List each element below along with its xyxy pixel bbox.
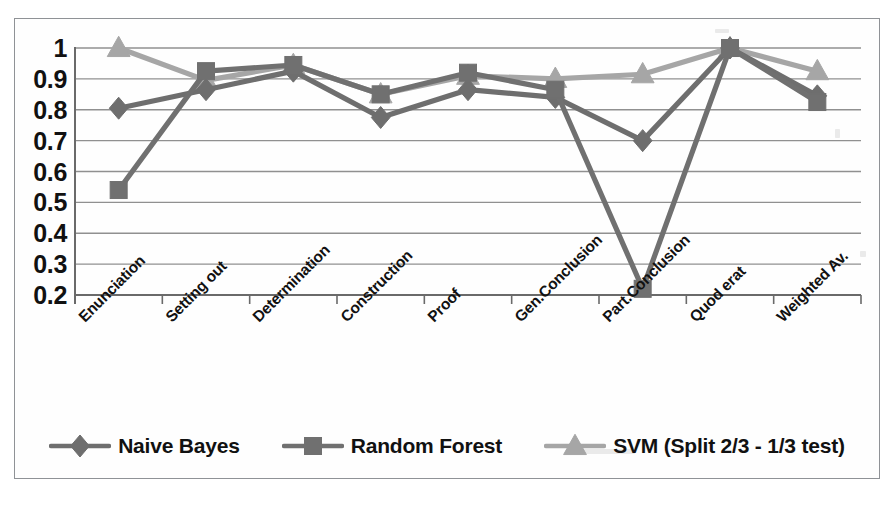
data-point-square (460, 64, 477, 81)
legend-label: SVM (Split 2/3 - 1/3 test) (613, 434, 845, 458)
chart-svg (75, 48, 861, 295)
data-point-square (547, 81, 564, 98)
y-axis-tick-label: 0.4 (11, 221, 67, 246)
legend-label: Random Forest (351, 434, 502, 458)
data-point-square (304, 438, 321, 455)
x-axis-label-group: EnunciationSetting outDeterminationConst… (75, 301, 861, 421)
data-point-square (110, 182, 127, 199)
legend-marker-square (282, 434, 344, 458)
series-naive-bayes (109, 37, 826, 152)
y-axis-tick-label: 1 (11, 36, 67, 61)
y-axis-label-group: 10.90.80.70.60.50.40.30.2 (15, 48, 67, 295)
legend-marker-diamond (49, 434, 111, 458)
data-point-square (198, 63, 215, 80)
y-axis-tick-label: 0.2 (11, 283, 67, 308)
chart-frame: 10.90.80.70.60.50.40.30.2 EnunciationSet… (14, 18, 880, 479)
y-axis-tick-label: 0.7 (11, 129, 67, 154)
scan-speckle (715, 29, 729, 33)
plot-area (75, 48, 861, 295)
legend-item[interactable]: Naive Bayes (49, 434, 240, 458)
legend-item[interactable]: SVM (Split 2/3 - 1/3 test) (544, 434, 845, 458)
data-point-diamond (109, 97, 128, 119)
legend-item[interactable]: Random Forest (282, 434, 502, 458)
y-axis-tick-label: 0.8 (11, 98, 67, 123)
legend-label: Naive Bayes (118, 434, 240, 458)
y-axis-tick-label: 0.6 (11, 160, 67, 185)
data-point-square (809, 94, 826, 111)
data-point-square (372, 86, 389, 103)
y-axis-tick-label: 0.5 (11, 190, 67, 215)
legend-marker-triangle (544, 434, 606, 458)
chart-legend: Naive BayesRandom ForestSVM (Split 2/3 -… (15, 423, 879, 469)
data-point-triangle (107, 36, 130, 56)
y-axis-tick-label: 0.3 (11, 252, 67, 277)
y-axis-tick-label: 0.9 (11, 67, 67, 92)
data-point-diamond (71, 435, 90, 457)
data-point-square (722, 40, 739, 57)
data-point-square (285, 56, 302, 73)
